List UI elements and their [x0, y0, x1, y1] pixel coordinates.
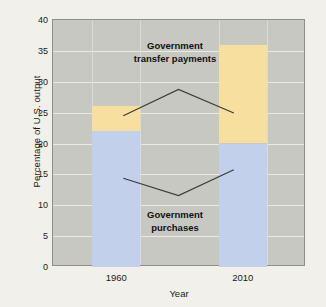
bar-segment [92, 131, 140, 267]
annotation-purchases: Government purchases [113, 209, 237, 234]
chart-figure: Percentage of U.S. output 05101520253035… [0, 0, 326, 307]
bar-segment [92, 106, 140, 131]
y-tick-label: 25 [38, 108, 48, 118]
vertical-gridline [267, 20, 268, 265]
y-tick-label: 5 [43, 231, 48, 241]
x-tick-label: 1960 [106, 272, 127, 283]
x-tick-label: 2010 [232, 272, 253, 283]
y-tick-label: 15 [38, 169, 48, 179]
y-tick-label: 35 [38, 46, 48, 56]
y-tick-label: 30 [38, 77, 48, 87]
y-tick-label: 40 [38, 15, 48, 25]
annotation-purchases-line1: Government [113, 209, 237, 222]
y-tick-label: 0 [43, 262, 48, 272]
bar-segment [219, 144, 267, 268]
y-tick-label: 10 [38, 200, 48, 210]
annotation-purchases-line2: purchases [113, 222, 237, 235]
x-axis-title: Year [52, 288, 306, 299]
annotation-transfer-payments: Government transfer payments [113, 40, 237, 65]
y-tick-label: 20 [38, 139, 48, 149]
annotation-transfers-line1: Government [113, 40, 237, 53]
annotation-transfers-line2: transfer payments [113, 53, 237, 66]
